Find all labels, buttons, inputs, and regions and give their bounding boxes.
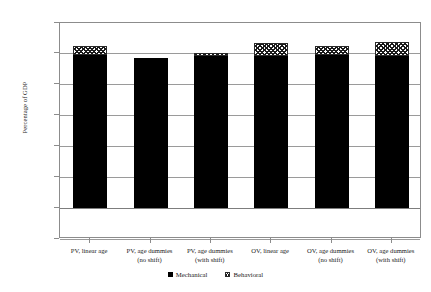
legend-item[interactable]: Behavioral (225, 271, 263, 278)
bar-group[interactable] (134, 23, 168, 237)
x-axis-category-label: PV, age dummies(with shift) (180, 247, 240, 264)
x-tick-mark (331, 238, 332, 243)
bar-segment-mechanical[interactable] (254, 56, 288, 208)
bars-layer (60, 23, 420, 237)
bar-segment-behavioral[interactable] (194, 53, 228, 56)
x-tick-mark (210, 238, 211, 243)
bar-group[interactable] (254, 23, 288, 237)
x-axis-category-label: OV, age dummies(with shift) (361, 247, 421, 264)
x-axis-label-line2: (with shift) (180, 256, 240, 265)
legend-swatch-solid (168, 272, 173, 277)
legend-swatch-hatch (225, 272, 230, 277)
x-axis-category-label: OV, linear age (240, 247, 300, 256)
gridline (60, 239, 420, 240)
bar-group[interactable] (315, 23, 349, 237)
x-axis-label-line2: (with shift) (361, 256, 421, 265)
x-axis-label-line2: (no shift) (300, 256, 360, 265)
bar-segment-behavioral[interactable] (254, 43, 288, 56)
bar-group[interactable] (375, 23, 409, 237)
chart-container: Percentage of GDP 1.20%1.00%0.80%0.60%0.… (0, 0, 431, 292)
bar-segment-mechanical[interactable] (315, 55, 349, 208)
legend-item[interactable]: Mechanical (168, 271, 208, 278)
x-axis-label-line1: OV, age dummies (307, 247, 354, 254)
x-tick-mark (89, 238, 90, 243)
bar-segment-mechanical[interactable] (73, 55, 107, 208)
x-tick-mark (270, 238, 271, 243)
x-tick-mark (150, 238, 151, 243)
x-axis-category-label: PV, linear age (59, 247, 119, 256)
bar-segment-mechanical[interactable] (194, 56, 228, 208)
y-axis-title: Percentage of GDP (21, 38, 28, 178)
x-axis-label-line2: (no shift) (119, 256, 179, 265)
x-axis-category-label: PV, age dummies(no shift) (119, 247, 179, 264)
bar-group[interactable] (73, 23, 107, 237)
chart-legend: MechanicalBehavioral (0, 271, 431, 278)
x-axis-label-line1: OV, linear age (251, 247, 289, 254)
x-tick-mark (391, 238, 392, 243)
bar-segment-behavioral[interactable] (73, 46, 107, 55)
legend-label: Behavioral (233, 271, 263, 278)
x-axis-label-line1: PV, age dummies (187, 247, 233, 254)
bar-group[interactable] (194, 23, 228, 237)
x-axis-label-line1: OV, age dummies (367, 247, 414, 254)
bar-segment-behavioral[interactable] (375, 42, 409, 57)
x-axis-label-line1: PV, linear age (71, 247, 108, 254)
x-axis-label-line1: PV, age dummies (127, 247, 173, 254)
bar-segment-mechanical[interactable] (375, 56, 409, 208)
bar-segment-behavioral[interactable] (315, 46, 349, 55)
bar-segment-mechanical[interactable] (134, 58, 168, 208)
legend-label: Mechanical (176, 271, 208, 278)
plot-area (59, 22, 421, 238)
x-axis-category-label: OV, age dummies(no shift) (300, 247, 360, 264)
